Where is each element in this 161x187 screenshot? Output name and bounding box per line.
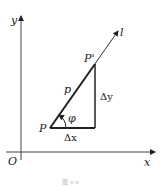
delta-x-label: Δx — [64, 132, 77, 143]
origin-label: O — [8, 155, 17, 168]
diagram-canvas: y x O l P' p P φ Δx Δy 图 x-x — [0, 0, 161, 187]
point-p-label: P — [38, 122, 47, 135]
y-axis-label: y — [10, 14, 18, 27]
figure-caption: 图 x-x — [62, 178, 80, 186]
segment-p-label: p — [64, 83, 71, 96]
delta-y-label: Δy — [100, 91, 113, 102]
x-axis-label: x — [144, 156, 151, 169]
angle-label: φ — [68, 112, 76, 125]
point-p-prime-label: P' — [83, 52, 94, 65]
line-l-label: l — [120, 26, 124, 39]
angle-arc-icon — [59, 115, 66, 128]
